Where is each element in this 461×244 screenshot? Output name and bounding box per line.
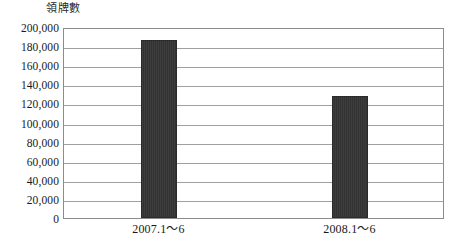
y-axis-tick-label: 160,000	[1, 60, 59, 72]
gridline	[64, 86, 443, 87]
x-axis: 2007.1〜62008.1〜6	[63, 221, 444, 241]
y-axis-tick-label: 140,000	[1, 79, 59, 91]
y-axis-tick-label: 20,000	[1, 194, 59, 206]
chart-title: 領牌數	[46, 2, 81, 15]
gridline	[64, 182, 443, 183]
gridline	[64, 125, 443, 126]
y-axis: 200,000180,000160,000140,000120,000100,0…	[0, 28, 59, 219]
plot-area	[63, 28, 444, 219]
y-axis-tick-label: 40,000	[1, 175, 59, 187]
x-axis-tick-label: 2008.1〜6	[254, 221, 445, 237]
y-axis-tick-label: 0	[1, 213, 59, 225]
bar	[141, 40, 177, 218]
gridline	[64, 67, 443, 68]
y-axis-tick-label: 60,000	[1, 156, 59, 168]
bar-chart: 領牌數 200,000180,000160,000140,000120,0001…	[0, 0, 461, 244]
y-axis-tick-label: 200,000	[1, 22, 59, 34]
gridline	[64, 201, 443, 202]
gridline	[64, 144, 443, 145]
y-axis-tick-label: 100,000	[1, 118, 59, 130]
y-axis-tick-label: 120,000	[1, 98, 59, 110]
gridline	[64, 105, 443, 106]
x-axis-tick-label: 2007.1〜6	[63, 221, 254, 237]
gridline	[64, 163, 443, 164]
bar	[332, 96, 368, 218]
gridline	[64, 48, 443, 49]
y-axis-tick-label: 180,000	[1, 41, 59, 53]
y-axis-tick-label: 80,000	[1, 137, 59, 149]
